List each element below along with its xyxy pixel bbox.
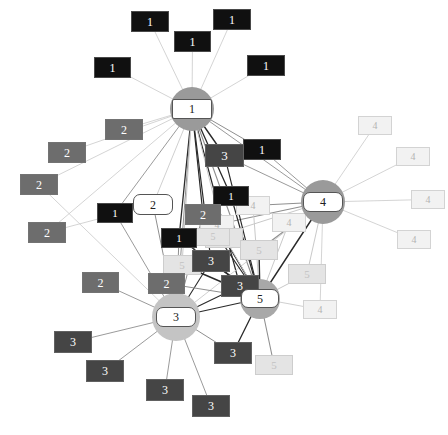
- graph-hub-label: 5: [257, 293, 263, 305]
- graph-node-2[interactable]: 2: [185, 204, 221, 225]
- graph-node-label: 3: [208, 400, 214, 412]
- graph-node-label: 4: [251, 201, 256, 211]
- graph-node-3[interactable]: 3: [54, 331, 92, 353]
- graph-node-label: 1: [228, 191, 234, 202]
- graph-node-label: 2: [200, 209, 206, 221]
- graph-node-2[interactable]: 2: [20, 174, 58, 195]
- graph-node-label: 1: [147, 16, 153, 28]
- graph-node-1[interactable]: 1: [131, 11, 169, 32]
- graph-node-1[interactable]: 1: [174, 31, 211, 52]
- graph-node-2[interactable]: 2: [105, 119, 143, 140]
- node-layer: 1111111112222222333333334444444455555514…: [0, 0, 448, 435]
- graph-node-3[interactable]: 3: [146, 379, 184, 401]
- graph-node-5[interactable]: 5: [255, 355, 293, 375]
- graph-hub-3[interactable]: 3: [156, 307, 196, 327]
- graph-node-label: 1: [112, 208, 118, 219]
- graph-node-label: 3: [70, 336, 76, 348]
- graph-node-1[interactable]: 1: [213, 186, 249, 206]
- graph-node-label: 1: [229, 14, 235, 26]
- graph-node-3[interactable]: 3: [214, 342, 252, 364]
- graph-node-4[interactable]: 4: [397, 230, 431, 249]
- graph-node-5[interactable]: 5: [240, 240, 278, 260]
- graph-node-label: 2: [121, 124, 127, 136]
- graph-node-1[interactable]: 1: [94, 57, 131, 78]
- network-graph-canvas: 1111111112222222333333334444444455555514…: [0, 0, 448, 435]
- graph-node-5[interactable]: 5: [196, 228, 230, 246]
- graph-node-label: 2: [164, 278, 170, 290]
- graph-hub-2[interactable]: 2: [133, 194, 173, 215]
- graph-node-4[interactable]: 4: [411, 190, 445, 209]
- graph-hub-label: 1: [189, 103, 195, 115]
- graph-node-3[interactable]: 3: [205, 144, 244, 167]
- graph-node-2[interactable]: 2: [48, 142, 86, 163]
- graph-node-2[interactable]: 2: [28, 222, 66, 243]
- graph-node-label: 4: [426, 195, 431, 205]
- graph-node-1[interactable]: 1: [97, 203, 133, 223]
- graph-node-4[interactable]: 4: [358, 116, 392, 135]
- graph-hub-label: 3: [173, 311, 179, 323]
- graph-node-label: 4: [373, 121, 378, 131]
- graph-node-label: 1: [259, 144, 265, 156]
- graph-node-label: 3: [230, 347, 236, 359]
- graph-hub-label: 2: [150, 199, 156, 211]
- graph-node-label: 4: [412, 235, 417, 245]
- graph-node-4[interactable]: 4: [272, 213, 306, 232]
- graph-node-label: 1: [176, 233, 182, 244]
- graph-node-label: 4: [287, 218, 292, 228]
- graph-node-label: 4: [411, 152, 416, 162]
- graph-node-1[interactable]: 1: [247, 55, 285, 76]
- graph-node-label: 2: [64, 147, 70, 159]
- graph-node-1[interactable]: 1: [213, 9, 251, 30]
- graph-node-label: 5: [256, 245, 262, 256]
- graph-node-label: 2: [36, 179, 42, 191]
- graph-node-label: 5: [179, 260, 185, 271]
- graph-node-4[interactable]: 4: [396, 147, 430, 166]
- graph-hub-label: 4: [320, 196, 326, 208]
- graph-node-label: 3: [102, 365, 108, 377]
- graph-node-label: 2: [44, 227, 50, 239]
- graph-node-label: 4: [318, 305, 323, 315]
- graph-node-1[interactable]: 1: [243, 139, 281, 160]
- graph-node-label: 5: [304, 269, 310, 280]
- graph-node-label: 1: [263, 60, 269, 72]
- graph-hub-1[interactable]: 1: [172, 99, 212, 119]
- graph-node-label: 1: [110, 62, 116, 74]
- graph-node-label: 3: [162, 384, 168, 396]
- graph-node-3[interactable]: 3: [192, 395, 230, 417]
- graph-node-3[interactable]: 3: [192, 250, 230, 272]
- graph-node-label: 1: [190, 36, 196, 48]
- graph-node-label: 3: [221, 149, 228, 162]
- graph-node-4[interactable]: 4: [303, 300, 337, 319]
- graph-hub-4[interactable]: 4: [303, 192, 343, 212]
- graph-node-5[interactable]: 5: [288, 264, 326, 284]
- graph-node-2[interactable]: 2: [148, 273, 185, 294]
- graph-node-label: 5: [271, 360, 277, 371]
- graph-node-label: 5: [211, 232, 216, 242]
- graph-node-2[interactable]: 2: [82, 272, 119, 293]
- graph-hub-5[interactable]: 5: [241, 289, 279, 308]
- graph-node-label: 2: [98, 277, 104, 289]
- graph-node-label: 3: [208, 255, 214, 267]
- graph-node-3[interactable]: 3: [86, 360, 124, 382]
- graph-node-1[interactable]: 1: [161, 228, 197, 248]
